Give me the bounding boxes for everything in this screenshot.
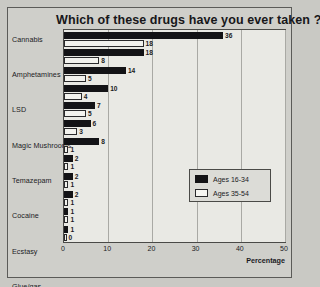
bar <box>64 216 68 223</box>
bar-value-label: 7 <box>97 102 101 109</box>
bar <box>64 191 73 198</box>
gridline <box>285 30 286 242</box>
bar-row: LSD145 <box>64 65 285 83</box>
bar-value-label: 8 <box>101 138 105 145</box>
chart-title: Which of these drugs have you ever taken… <box>56 11 288 29</box>
bar-value-label: 6 <box>93 120 97 127</box>
category-label: Temazepam <box>12 176 52 185</box>
bar-value-label: 1 <box>70 226 74 233</box>
bar-value-label: 5 <box>88 110 92 117</box>
bar-row: PCP/Angel Dust10 <box>64 224 285 242</box>
bar <box>64 75 86 82</box>
bar-value-label: 36 <box>225 32 232 39</box>
bar-value-label: 1 <box>70 163 74 170</box>
chart-legend: Ages 16-34 Ages 35-54 <box>189 169 271 202</box>
bar <box>64 155 73 162</box>
bar-row: Amphetamines188 <box>64 48 285 66</box>
category-label: Cocaine <box>12 211 39 220</box>
bar-value-label: 3 <box>79 128 83 135</box>
bar <box>64 120 91 127</box>
bar-value-label: 2 <box>75 191 79 198</box>
bar <box>64 32 223 39</box>
x-axis-tick-label: 40 <box>230 245 250 252</box>
bar-value-label: 1 <box>70 181 74 188</box>
bar-row: Cannabis3618 <box>64 30 285 48</box>
bar <box>64 199 68 206</box>
bar <box>64 93 82 100</box>
bar-row: Magic Mushrooms104 <box>64 83 285 101</box>
bar-value-label: 8 <box>101 57 105 64</box>
legend-item-label: Ages 16-34 <box>213 174 249 185</box>
legend-item-label: Ages 35-54 <box>213 188 249 199</box>
category-label: Amphetamines <box>12 70 61 79</box>
category-label: Glue/gas <box>12 282 41 287</box>
bar <box>64 163 68 170</box>
bar <box>64 85 108 92</box>
x-axis-tick-label: 20 <box>141 245 161 252</box>
bar-value-label: 0 <box>69 234 73 241</box>
bar <box>64 40 144 47</box>
bar-value-label: 4 <box>84 93 88 100</box>
bar-value-label: 1 <box>70 208 74 215</box>
bar <box>64 110 86 117</box>
bar <box>64 138 99 145</box>
bar <box>64 57 99 64</box>
category-label: Cannabis <box>12 35 43 44</box>
bar <box>64 49 144 56</box>
bar-row: Ecstasy81 <box>64 136 285 154</box>
bar-value-label: 2 <box>75 155 79 162</box>
x-axis-label: Percentage <box>246 256 285 265</box>
bar-rows: Cannabis3618Amphetamines188LSD145Magic M… <box>64 30 285 242</box>
legend-swatch-icon <box>195 175 208 183</box>
bar-value-label: 5 <box>88 75 92 82</box>
bar <box>64 102 95 109</box>
chart-figure: Which of these drugs have you ever taken… <box>7 7 292 278</box>
category-label: Ecstasy <box>12 247 38 256</box>
bar-value-label: 2 <box>75 173 79 180</box>
bar-value-label: 10 <box>110 85 117 92</box>
bar <box>64 128 77 135</box>
bar-value-label: 14 <box>128 67 135 74</box>
bar <box>64 208 68 215</box>
bar <box>64 146 68 153</box>
bar <box>64 226 68 233</box>
category-label: Magic Mushrooms <box>12 141 71 150</box>
plot-area: Cannabis3618Amphetamines188LSD145Magic M… <box>63 29 286 243</box>
bar-row: Crack11 <box>64 207 285 225</box>
bar-value-label: 18 <box>146 49 153 56</box>
bar-value-label: 1 <box>70 146 74 153</box>
bar-row: Temazepam75 <box>64 101 285 119</box>
x-axis-tick-label: 30 <box>186 245 206 252</box>
bar <box>64 234 67 241</box>
x-axis-tick-label: 50 <box>274 245 294 252</box>
bar-row: Cocaine63 <box>64 118 285 136</box>
bar-value-label: 1 <box>70 199 74 206</box>
bar-value-label: 1 <box>70 216 74 223</box>
x-axis-tick-label: 0 <box>53 245 73 252</box>
bar <box>64 181 68 188</box>
bar-value-label: 18 <box>146 40 153 47</box>
bar <box>64 67 126 74</box>
x-axis-tick-label: 10 <box>97 245 117 252</box>
legend-swatch-icon <box>195 189 208 197</box>
bar <box>64 173 73 180</box>
category-label: LSD <box>12 105 26 114</box>
